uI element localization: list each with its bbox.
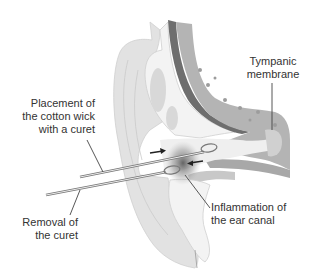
label-tympanic-membrane: Tympanic membrane [238,55,308,81]
label-line: the cotton wick [10,110,95,123]
label-line: Placement of [10,97,95,110]
label-line: the ear canal [211,214,311,227]
leader-placement [87,140,103,172]
label-line: membrane [238,68,308,81]
label-line: Tympanic [238,55,308,68]
label-placement: Placement of the cotton wick with a cure… [10,97,95,136]
label-line: the curet [10,229,78,242]
label-removal: Removal of the curet [10,216,78,242]
leader-removal [70,190,80,215]
label-line: Inflammation of [211,201,311,214]
label-line: Removal of [10,216,78,229]
label-line: with a curet [10,123,95,136]
cartilage-blob [166,106,178,130]
label-inflammation: Inflammation of the ear canal [211,201,311,227]
cartilage-blob [150,68,166,112]
inflammation [165,141,201,185]
